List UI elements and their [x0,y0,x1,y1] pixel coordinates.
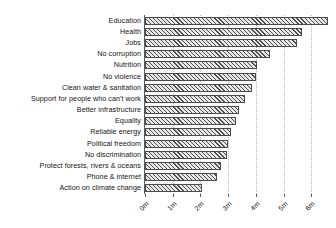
bar-row: Nutrition [0,60,336,71]
x-tick-mark [173,194,174,197]
category-label: Jobs [126,39,141,47]
bar-rows: EducationHealthJobsNo corruptionNutritio… [0,15,336,194]
category-label: No corruption [97,50,141,58]
x-tick-mark [145,194,146,197]
bar-row: Phone & internet [0,172,336,183]
bar [145,128,231,136]
bar [145,50,270,58]
bar-row: Political freedom [0,138,336,149]
bar [145,106,239,114]
x-axis-ticks: 0m1m2m3m4m5m6m [0,194,336,228]
category-label: Better infrastructure [77,106,141,114]
bar [145,184,202,192]
category-label: Nutrition [114,61,141,69]
x-tick-label: 0m [117,200,151,228]
x-tick-mark [311,194,312,197]
bar [145,17,328,25]
category-label: Protect forests, rivers & oceans [40,162,141,170]
category-label: Health [120,28,141,36]
x-tick-mark [200,194,201,197]
bar [145,95,245,103]
bar-row: Action on climate change [0,183,336,194]
category-label: Equality [115,117,141,125]
bar-row: Reliable energy [0,127,336,138]
category-label: Political freedom [87,140,141,148]
bar-row: Support for people who can't work [0,93,336,104]
bar [145,151,227,159]
bar [145,173,217,181]
category-label: Education [109,17,141,25]
bar-row: Education [0,15,336,26]
x-tick-mark [228,194,229,197]
bar [145,162,221,170]
category-label: Phone & internet [87,173,141,181]
bar [145,28,302,36]
bar [145,73,256,81]
bar-row: No violence [0,71,336,82]
bar-row: Health [0,26,336,37]
category-label: Reliable energy [90,128,141,136]
bar [145,61,257,69]
bar-row: Protect forests, rivers & oceans [0,160,336,171]
bar-row: Clean water & sanitation [0,82,336,93]
x-tick-mark [284,194,285,197]
bar [145,39,297,47]
category-label: No violence [103,73,141,81]
bar-row: Jobs [0,37,336,48]
bar [145,140,228,148]
category-label: Clean water & sanitation [62,84,141,92]
bar-row: Equality [0,116,336,127]
category-label: Action on climate change [59,184,141,192]
category-label: Support for people who can't work [31,95,141,103]
bar-row: No discrimination [0,149,336,160]
x-tick-mark [256,194,257,197]
bar [145,117,236,125]
bar-chart: EducationHealthJobsNo corruptionNutritio… [0,0,336,228]
bar [145,84,252,92]
bar-row: Better infrastructure [0,105,336,116]
category-label: No discrimination [85,151,141,159]
bar-row: No corruption [0,49,336,60]
